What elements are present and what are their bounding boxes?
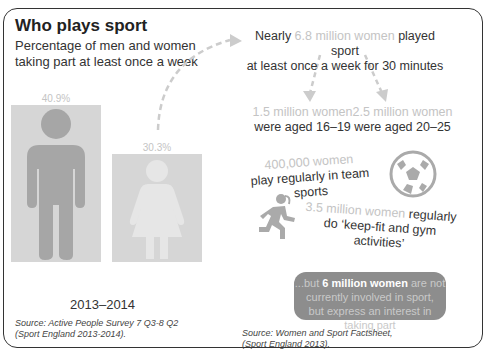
intro-highlight: 6.8 million women	[295, 29, 395, 43]
interest-callout: ...but 6 million women are not currently…	[294, 272, 446, 320]
age1-text: were aged 16–19	[245, 120, 360, 135]
box-prefix: ...but	[295, 277, 323, 289]
box-suffix: are not	[408, 277, 445, 289]
intro-prefix: Nearly	[255, 29, 295, 43]
source-right-line2: (Sport England 2013).	[242, 339, 393, 350]
age2-text: were aged 20–25	[345, 120, 460, 135]
source-right: Source: Women and Sport Factsheet, (Spor…	[242, 328, 393, 350]
football-icon	[389, 150, 437, 198]
age2-highlight: 2.5 million women	[345, 105, 460, 120]
runner-icon	[257, 192, 299, 240]
age-fact-1: 1.5 million women were aged 16–19	[245, 105, 360, 135]
age1-highlight: 1.5 million women	[245, 105, 360, 120]
box-line2: currently involved in sport,	[294, 290, 446, 304]
box-highlight: 6 million women	[322, 277, 408, 289]
age-fact-2: 2.5 million women were aged 20–25	[345, 105, 460, 135]
intro-fact: Nearly 6.8 million women played sport at…	[240, 29, 450, 74]
source-right-line1: Source: Women and Sport Factsheet,	[242, 328, 393, 339]
intro-line2: at least once a week for 30 minutes	[247, 59, 444, 73]
